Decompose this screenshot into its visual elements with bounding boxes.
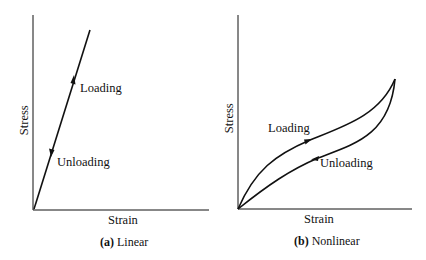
panel-b-plot [238, 15, 412, 209]
panel-a-unloading-arrow-icon [49, 149, 55, 158]
panel-b-ylabel: Stress [223, 103, 236, 133]
panel-b-xlabel: Strain [304, 213, 334, 226]
panel-a-plot [33, 15, 209, 210]
panel-a-xlabel: Strain [108, 214, 138, 227]
diagram-canvas [0, 0, 426, 260]
panel-a-unloading-label: Unloading [57, 156, 110, 169]
panel-b-loading-arrow-icon [304, 139, 312, 145]
panel-a-linear-curve [34, 30, 90, 209]
panel-b-unloading-label: Unloading [320, 157, 373, 170]
panel-a-caption: (a) Linear [100, 236, 148, 248]
panel-b-caption: (b) Nonlinear [294, 235, 360, 247]
panel-a-caption-tag: (a) [100, 235, 114, 249]
panel-a-ylabel: Stress [18, 105, 31, 135]
panel-b-loading-label: Loading [268, 122, 310, 135]
panel-b-caption-tag: (b) [294, 234, 309, 248]
panel-b-loading-curve [238, 79, 395, 209]
panel-b-unloading-curve [238, 79, 395, 209]
panel-b-caption-text: Nonlinear [312, 234, 360, 248]
panel-a-caption-text: Linear [117, 235, 148, 249]
panel-a-loading-label: Loading [80, 82, 122, 95]
